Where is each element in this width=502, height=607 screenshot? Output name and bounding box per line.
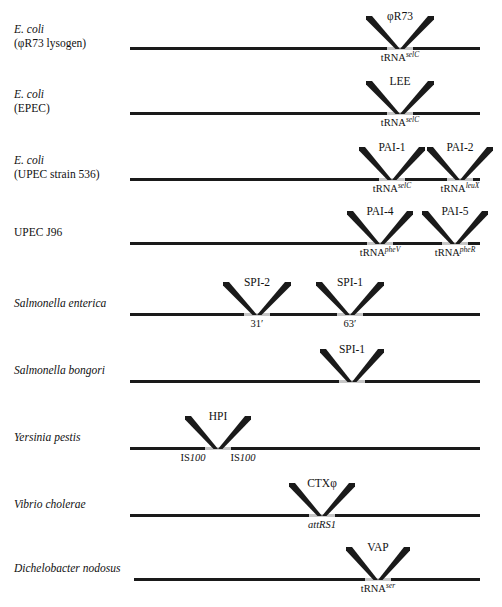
island-label: VAP — [366, 541, 390, 553]
organism-name-line: UPEC J96 — [14, 225, 62, 239]
flanking-is-element-label: IS100 — [230, 452, 255, 464]
flanking-is-element-label: IS100 — [180, 452, 205, 464]
insertion-site-label: tRNAselC — [381, 117, 419, 129]
chromosome-line — [134, 578, 480, 581]
insertion-site-gene: tRNA — [373, 183, 398, 194]
insertion-site-gene: tRNA — [361, 583, 386, 594]
island-label: HPI — [208, 410, 229, 422]
insertion-site-gene: 63′ — [344, 318, 357, 329]
insertion-site-superscript: selC — [398, 181, 411, 190]
organism-name-line: E. coli — [14, 87, 50, 101]
island-label: CTXφ — [306, 477, 338, 489]
insertion-site-superscript: pheR — [460, 245, 475, 254]
organism-name-line: Vibrio cholerae — [14, 497, 86, 511]
organism-name: Vibrio cholerae — [14, 497, 86, 511]
insertion-site-gene: tRNA — [435, 247, 460, 258]
is-prefix: IS — [180, 452, 189, 463]
organism-name: Yersinia pestis — [14, 430, 80, 444]
is-prefix: IS — [230, 452, 239, 463]
island-label: SPI-1 — [336, 276, 364, 288]
insertion-site-superscript: ser — [386, 581, 395, 590]
organism-name-line: (φR73 lysogen) — [14, 36, 86, 50]
insertion-site-superscript: selC — [406, 50, 419, 59]
island-label: SPI-1 — [338, 343, 366, 355]
insertion-site-label: tRNApheR — [435, 247, 476, 259]
island-label: φR73 — [386, 10, 414, 22]
organism-name-line: Salmonella bongori — [14, 363, 105, 377]
island-label: LEE — [388, 75, 411, 87]
island-label: PAI-2 — [445, 141, 474, 153]
insertion-site-superscript: selC — [406, 115, 419, 124]
organism-name-line: Salmonella enterica — [14, 296, 106, 310]
insertion-site-label: tRNAselC — [373, 183, 411, 195]
insertion-site-label: 31′ — [251, 318, 264, 330]
insertion-site-superscript: pheV — [385, 245, 400, 254]
organism-name: Salmonella enterica — [14, 296, 106, 310]
organism-name-line: (EPEC) — [14, 101, 50, 115]
pathogenicity-island-figure: E. coli(φR73 lysogen)φR73tRNAselCE. coli… — [0, 0, 502, 607]
island-label: PAI-5 — [440, 205, 469, 217]
insertion-site-gene: tRNA — [381, 117, 406, 128]
organism-name: Dichelobacter nodosus — [14, 561, 120, 575]
organism-name-line: E. coli — [14, 22, 86, 36]
organism-name-line: E. coli — [14, 153, 100, 167]
insertion-site-gene: 31′ — [251, 318, 264, 329]
insertion-site-label: tRNApheV — [360, 247, 401, 259]
insertion-site-gene: attRS1 — [308, 519, 336, 530]
insertion-site-gene: tRNA — [381, 52, 406, 63]
is-number: 100 — [190, 452, 206, 463]
insertion-site-label: 63′ — [344, 318, 357, 330]
organism-name: E. coli(EPEC) — [14, 87, 50, 115]
insertion-site-gene: tRNA — [360, 247, 385, 258]
organism-name: Salmonella bongori — [14, 363, 105, 377]
insertion-site-superscript: leuX — [466, 181, 480, 190]
insertion-site-label: tRNAser — [361, 583, 395, 595]
organism-name-line: Yersinia pestis — [14, 430, 80, 444]
insertion-site-gene: tRNA — [441, 183, 466, 194]
island-label: PAI-1 — [377, 141, 406, 153]
organism-name: E. coli(UPEC strain 536) — [14, 153, 100, 181]
island-label: PAI-4 — [365, 205, 394, 217]
is-number: 100 — [240, 452, 256, 463]
organism-name: UPEC J96 — [14, 225, 62, 239]
island-label: SPI-2 — [243, 276, 271, 288]
chromosome-line — [130, 380, 480, 383]
organism-name-line: Dichelobacter nodosus — [14, 561, 120, 575]
organism-name-line: (UPEC strain 536) — [14, 167, 100, 181]
insertion-site-label: attRS1 — [308, 519, 336, 531]
insertion-site-label: tRNAleuX — [441, 183, 480, 195]
insertion-site-label: tRNAselC — [381, 52, 419, 64]
organism-name: E. coli(φR73 lysogen) — [14, 22, 86, 50]
chromosome-line — [130, 313, 480, 316]
